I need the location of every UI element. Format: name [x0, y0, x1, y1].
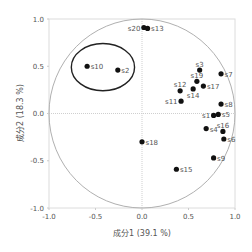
- data-point-s1: s1: [202, 112, 216, 120]
- data-point-s14: s14: [187, 86, 200, 100]
- point-marker: [201, 83, 206, 88]
- data-point-s5: s5: [216, 111, 230, 119]
- point-marker: [211, 155, 216, 160]
- point-marker: [174, 167, 179, 172]
- point-label: s7: [225, 71, 233, 79]
- point-label: s14: [187, 92, 200, 100]
- point-marker: [145, 26, 150, 31]
- point-label: s3: [196, 61, 204, 69]
- x-tick-label: 1.0: [229, 213, 240, 221]
- y-tick-label: 0.5: [33, 63, 44, 71]
- data-point-s13: s13: [145, 25, 164, 33]
- point-label: s8: [225, 101, 233, 109]
- point-marker: [191, 86, 196, 91]
- data-point-s15: s15: [174, 166, 193, 174]
- x-axis-ticks: -1.0-0.50.00.51.0: [42, 208, 240, 221]
- x-tick-label: -1.0: [42, 213, 56, 221]
- point-marker: [221, 136, 226, 141]
- point-marker: [216, 112, 221, 117]
- data-point-s9: s9: [211, 155, 225, 163]
- y-tick-label: 0.0: [33, 110, 44, 118]
- x-tick-label: -0.5: [89, 213, 103, 221]
- y-axis-ticks: 1.00.50.0-0.5-1.0: [30, 16, 49, 213]
- point-label: s15: [180, 166, 193, 174]
- data-point-s20: s20: [128, 25, 147, 33]
- data-point-s19: s19: [191, 72, 204, 84]
- x-tick-label: 0.5: [183, 213, 194, 221]
- point-marker: [115, 67, 120, 72]
- y-tick-label: -1.0: [30, 205, 44, 213]
- point-label: s17: [207, 83, 220, 91]
- data-point-s2: s2: [115, 67, 129, 75]
- point-marker: [218, 101, 223, 106]
- point-label: s19: [191, 72, 204, 80]
- point-marker: [211, 113, 216, 118]
- data-point-s3: s3: [196, 61, 204, 73]
- data-point-s11: s11: [165, 98, 184, 106]
- point-label: s6: [227, 136, 236, 144]
- data-point-s6: s6: [221, 136, 236, 144]
- y-axis-label: 成分2 (18.3 %): [15, 84, 25, 142]
- point-label: s11: [165, 98, 178, 106]
- point-label: s20: [128, 25, 141, 33]
- point-label: s16: [217, 122, 230, 130]
- y-tick-label: 1.0: [33, 16, 44, 24]
- data-point-s7: s7: [218, 71, 232, 79]
- x-tick-label: 0.0: [136, 213, 147, 221]
- point-label: s10: [91, 63, 104, 71]
- point-label: s18: [146, 139, 159, 147]
- point-marker: [204, 126, 209, 131]
- y-tick-label: -0.5: [30, 157, 44, 165]
- data-point-s17: s17: [201, 83, 220, 91]
- point-label: s1: [202, 112, 210, 120]
- data-points: s20s13s10s2s3s7s19s17s12s14s11s8s1s5s4s1…: [85, 25, 236, 175]
- data-point-s16: s16: [217, 122, 230, 134]
- data-point-s10: s10: [85, 63, 104, 71]
- data-point-s12: s12: [174, 81, 187, 93]
- point-label: s5: [222, 111, 230, 119]
- x-axis-label: 成分1 (39.1 %): [113, 228, 171, 238]
- point-label: s13: [151, 25, 164, 33]
- data-point-s8: s8: [218, 101, 232, 109]
- point-label: s9: [217, 155, 225, 163]
- point-label: s12: [174, 81, 187, 89]
- point-label: s2: [121, 67, 129, 75]
- pca-loading-plot: -1.0-0.50.00.51.0 1.00.50.0-0.5-1.0 s20s…: [0, 0, 252, 252]
- point-marker: [139, 139, 144, 144]
- point-marker: [85, 64, 90, 69]
- point-marker: [218, 71, 223, 76]
- point-marker: [178, 99, 183, 104]
